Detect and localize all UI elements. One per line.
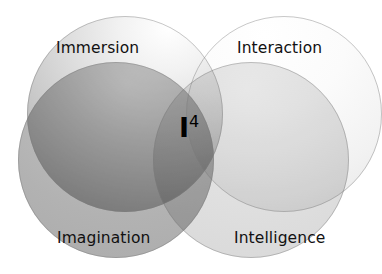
center-mark-exponent: 4 xyxy=(189,112,199,131)
label-intelligence: Intelligence xyxy=(234,231,325,247)
label-interaction: Interaction xyxy=(237,41,322,57)
center-mark-base: I xyxy=(179,112,189,143)
label-immersion: Immersion xyxy=(56,41,139,57)
label-imagination: Imagination xyxy=(57,231,150,247)
center-mark-i4: I4 xyxy=(179,114,199,141)
